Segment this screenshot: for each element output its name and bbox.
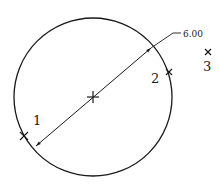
point-1: 1: [20, 113, 41, 140]
point-label: 1: [33, 113, 41, 128]
dimension-leader: [151, 33, 181, 48]
point-marker-icon: [205, 49, 211, 55]
point-marker-icon: [20, 132, 28, 140]
point-2: 2: [151, 69, 172, 86]
diagram-canvas: 6.00 1 2 3: [0, 0, 219, 185]
diameter-dimension: 6.00: [36, 29, 203, 146]
dimension-value: 6.00: [183, 29, 203, 39]
point-label: 2: [151, 71, 159, 86]
point-3: 3: [203, 49, 211, 74]
point-label: 3: [203, 59, 211, 74]
dimension-line: [36, 48, 151, 146]
